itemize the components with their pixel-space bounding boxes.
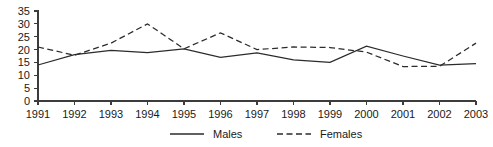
y-tick-label: 15 — [18, 56, 30, 68]
y-tick-label: 5 — [24, 82, 30, 94]
legend-label-females: Females — [320, 128, 363, 140]
x-tick-label: 1993 — [99, 108, 123, 120]
series-line-females — [38, 24, 476, 67]
x-tick-label: 2003 — [464, 108, 488, 120]
x-tick-label: 1995 — [172, 108, 196, 120]
y-axis-tick-labels: 05101520253035 — [18, 5, 30, 107]
x-tick-label: 1998 — [281, 108, 305, 120]
x-tick-label: 1997 — [245, 108, 269, 120]
y-tick-label: 25 — [18, 31, 30, 43]
x-tick-label: 1996 — [208, 108, 232, 120]
x-tick-label: 2000 — [354, 108, 378, 120]
x-tick-label: 1994 — [135, 108, 159, 120]
x-tick-label: 2002 — [427, 108, 451, 120]
y-axis-tick-marks — [34, 11, 38, 101]
y-tick-label: 20 — [18, 44, 30, 56]
y-tick-label: 30 — [18, 18, 30, 30]
y-tick-label: 35 — [18, 5, 30, 17]
y-tick-label: 0 — [24, 95, 30, 107]
x-tick-label: 1992 — [62, 108, 86, 120]
chart-legend: Males Females — [170, 128, 363, 140]
x-tick-label: 1999 — [318, 108, 342, 120]
y-tick-label: 10 — [18, 69, 30, 81]
x-axis-tick-marks — [38, 101, 476, 105]
line-chart: 05101520253035 1991199219931994199519961… — [0, 0, 493, 147]
x-tick-label: 2001 — [391, 108, 415, 120]
x-axis-tick-labels: 1991199219931994199519961997199819992000… — [26, 108, 488, 120]
x-tick-label: 1991 — [26, 108, 50, 120]
legend-label-males: Males — [213, 128, 243, 140]
chart-canvas: 05101520253035 1991199219931994199519961… — [0, 0, 493, 147]
